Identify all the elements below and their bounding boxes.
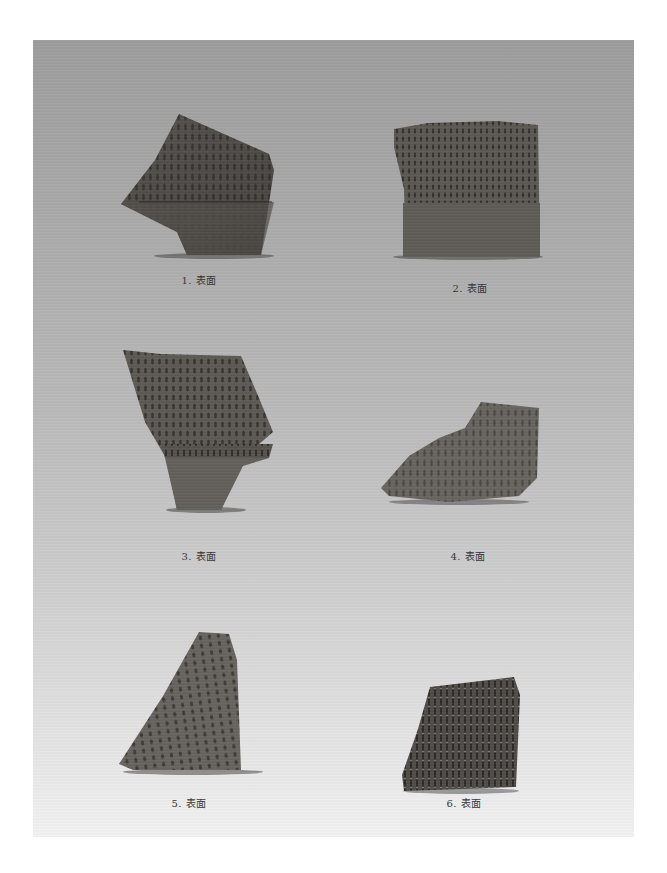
figure-caption-2: 2. 表面 <box>420 280 520 295</box>
pottery-shard-2 <box>388 119 548 261</box>
pottery-shard-4 <box>379 398 544 508</box>
figure-caption-5: 5. 表面 <box>139 795 239 810</box>
figure-caption-3: 3. 表面 <box>149 548 249 563</box>
photo-plate: 1. 表面 2. 表面 <box>33 40 634 837</box>
pottery-shard-3 <box>121 348 281 513</box>
pottery-shard-6 <box>396 675 526 795</box>
figure-caption-6: 6. 表面 <box>414 795 514 810</box>
pottery-shard-5 <box>113 630 273 775</box>
figure-caption-1: 1. 表面 <box>149 272 249 287</box>
figure-caption-4: 4. 表面 <box>418 548 518 563</box>
pottery-shard-1 <box>119 112 279 260</box>
